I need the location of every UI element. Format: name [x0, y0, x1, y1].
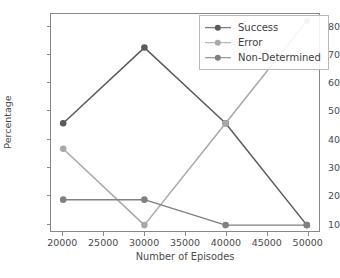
series-point [141, 44, 148, 51]
x-tick-mark [226, 232, 227, 236]
legend-label: Success [238, 23, 278, 33]
chart-legend: SuccessErrorNon-Determined [199, 15, 329, 70]
x-tick-mark [103, 232, 104, 236]
legend-label: Non-Determined [238, 53, 321, 63]
x-tick-label: 30000 [129, 237, 159, 248]
series-point [141, 222, 148, 229]
x-tick-label: 25000 [88, 237, 118, 248]
x-tick-mark [185, 232, 186, 236]
x-axis-label: Number of Episodes [136, 251, 235, 262]
series-point [222, 120, 229, 127]
legend-item: Error [205, 35, 321, 50]
series-point [60, 145, 67, 152]
x-tick-mark [267, 232, 268, 236]
series-point [222, 222, 229, 229]
series-point [60, 120, 67, 127]
series-point [60, 196, 67, 203]
series-point [141, 196, 148, 203]
legend-item: Non-Determined [205, 50, 321, 65]
legend-marker-icon [205, 37, 231, 48]
x-tick-label: 50000 [293, 237, 323, 248]
y-axis-label: Percentage [2, 95, 13, 148]
series-line [63, 48, 307, 226]
chart-figure: Percentage Number of Episodes 1020304050… [0, 0, 340, 278]
x-tick-mark [144, 232, 145, 236]
legend-item: Success [205, 20, 321, 35]
x-tick-label: 40000 [211, 237, 241, 248]
legend-label: Error [238, 38, 262, 48]
x-tick-label: 45000 [252, 237, 282, 248]
x-tick-label: 20000 [47, 237, 77, 248]
x-tick-label: 35000 [170, 237, 200, 248]
x-tick-mark [62, 232, 63, 236]
legend-marker-icon [205, 22, 231, 33]
legend-marker-icon [205, 52, 231, 63]
x-tick-mark [308, 232, 309, 236]
series-point [304, 222, 311, 229]
series-line [63, 200, 307, 225]
